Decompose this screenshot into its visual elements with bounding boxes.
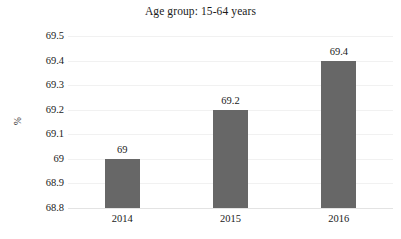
bar[interactable]: [105, 159, 140, 208]
y-axis-tick-label: 69.5: [30, 31, 64, 42]
y-axis-tick-label: 69.3: [30, 80, 64, 91]
gridline: [68, 36, 393, 37]
x-axis-tick-label: 2016: [309, 214, 369, 225]
gridline: [68, 208, 393, 209]
y-axis-title: %: [9, 112, 27, 130]
y-axis-tick-label: 69: [30, 154, 64, 165]
y-axis-tick-label: 69.4: [30, 56, 64, 67]
bar-value-label: 69.2: [201, 96, 261, 107]
bar-value-label: 69.4: [309, 47, 369, 58]
y-axis-tick-label: 69.1: [30, 129, 64, 140]
bar-chart: Age group: 15-64 years % 69.569.469.369.…: [0, 0, 401, 239]
x-axis-tick-label: 2014: [92, 214, 152, 225]
y-axis-tick-label: 69.2: [30, 105, 64, 116]
x-axis-tick-label: 2015: [201, 214, 261, 225]
plot-area: [68, 36, 393, 208]
bar-value-label: 69: [92, 145, 152, 156]
y-axis-tick-label: 68.8: [30, 203, 64, 214]
chart-title: Age group: 15-64 years: [0, 5, 401, 17]
bar[interactable]: [213, 110, 248, 208]
y-axis-tick-label: 68.9: [30, 178, 64, 189]
bar[interactable]: [321, 61, 356, 208]
